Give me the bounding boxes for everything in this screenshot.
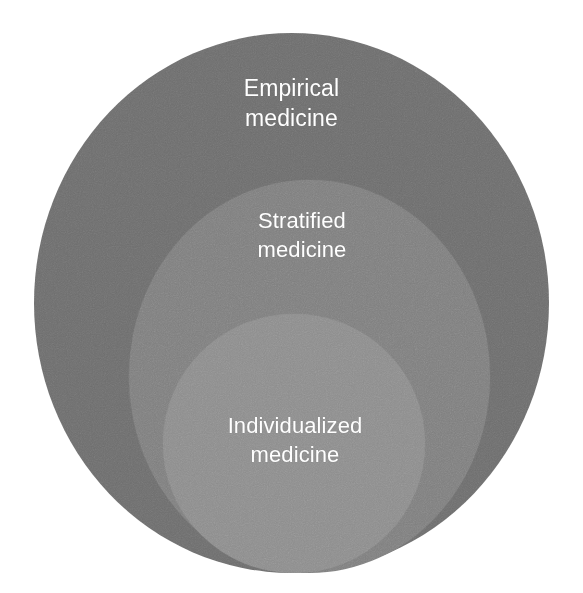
label-individualized-medicine: Individualized medicine xyxy=(0,412,583,469)
label-stratified-medicine: Stratified medicine xyxy=(0,207,583,264)
label-empirical-medicine: Empirical medicine xyxy=(0,74,583,134)
diagram-canvas: Empirical medicine Stratified medicine I… xyxy=(0,0,583,593)
